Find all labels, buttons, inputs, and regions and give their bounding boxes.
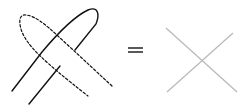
crossing-line-1 — [166, 28, 237, 92]
crossing-line-2 — [167, 33, 233, 92]
solid-strand — [12, 9, 98, 104]
right-figure-crossing — [166, 28, 237, 92]
equals-sign — [128, 48, 143, 52]
knot-diagram — [0, 0, 247, 106]
left-figure — [12, 9, 112, 104]
